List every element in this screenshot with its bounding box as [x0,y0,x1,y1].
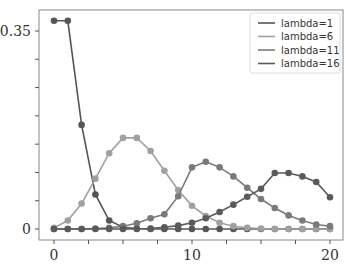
data-point [216,209,223,216]
data-point [258,196,265,203]
data-point [299,217,306,224]
data-point [147,215,154,222]
data-point [65,18,72,25]
data-point [327,223,334,230]
data-point [244,225,251,232]
data-point [134,135,141,142]
x-tick-label: 20 [321,247,339,263]
data-point [161,224,168,231]
data-point [285,170,292,177]
data-point [106,217,113,224]
data-point [147,225,154,232]
data-point [78,200,85,207]
data-point [244,184,251,191]
data-point [175,193,182,200]
data-point [147,148,154,155]
data-point [161,167,168,174]
data-point [258,225,265,232]
data-point [78,226,85,233]
data-point [299,226,306,233]
data-point [161,211,168,218]
legend-label: lambda=1 [281,18,333,29]
data-point [203,158,210,165]
data-point [92,175,99,182]
data-point [285,226,292,233]
data-point [216,226,223,233]
data-point [78,122,85,129]
data-point [244,193,251,200]
data-point [65,226,72,233]
data-point [203,215,210,222]
poisson-pmf-chart: 00.3501020 lambda=1lambda=6lambda=11lamb… [0,0,352,272]
data-point [120,226,127,233]
data-point [258,186,265,193]
legend-label: lambda=16 [281,58,340,69]
data-point [313,221,320,228]
data-point [120,135,127,142]
data-point [313,179,320,186]
data-point [272,226,279,233]
data-point [216,219,223,226]
data-point [230,223,237,230]
legend-label: lambda=6 [281,31,333,42]
data-point [230,201,237,208]
data-point [285,212,292,219]
x-tick-label: 10 [183,247,201,263]
data-point [134,226,141,233]
data-point [92,226,99,233]
data-point [106,150,113,157]
data-point [106,226,113,233]
data-point [189,219,196,226]
data-point [51,226,58,233]
data-point [203,226,210,233]
data-point [175,222,182,229]
data-point [189,164,196,171]
y-tick-label: 0 [22,221,31,237]
data-point [92,191,99,198]
data-point [216,164,223,171]
data-point [189,203,196,210]
data-point [189,226,196,233]
data-point [230,173,237,180]
data-point [65,217,72,224]
legend: lambda=1lambda=6lambda=11lambda=16 [250,13,340,73]
data-point [51,18,58,25]
y-tick-label: 0.35 [0,23,31,39]
data-point [272,205,279,212]
data-point [299,173,306,180]
data-point [134,220,141,227]
data-point [272,170,279,177]
legend-label: lambda=11 [281,45,340,56]
data-point [327,194,334,201]
x-tick-label: 0 [50,247,59,263]
